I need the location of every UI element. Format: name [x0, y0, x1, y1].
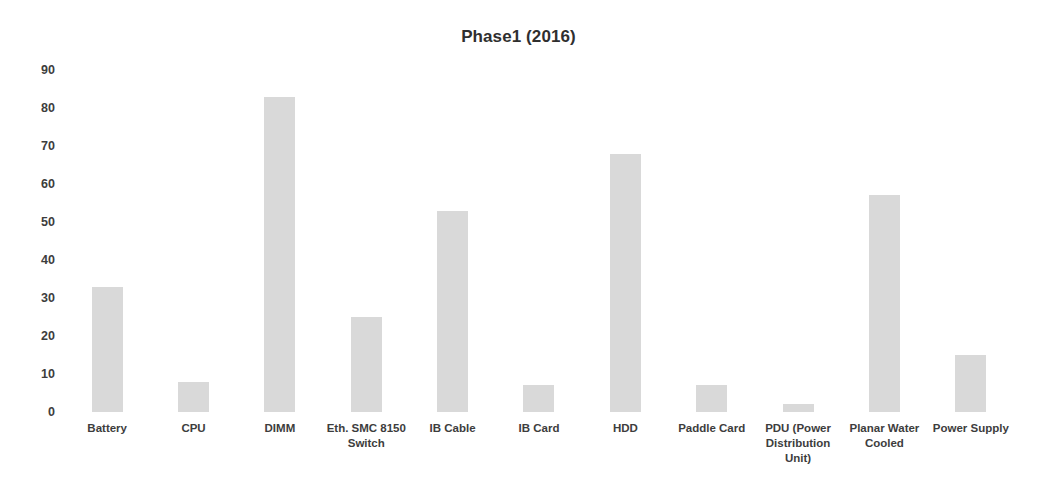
bar[interactable] [955, 355, 986, 412]
x-axis-category-label: Battery [64, 421, 150, 436]
bar-slot [237, 70, 323, 412]
x-axis-category-label: Paddle Card [669, 421, 755, 436]
x-axis-category-label: IB Cable [409, 421, 495, 436]
bar[interactable] [351, 317, 382, 412]
bar-slot [323, 70, 409, 412]
x-axis-category-label: IB Card [496, 421, 582, 436]
bar-slot [841, 70, 927, 412]
y-axis-tick-label: 30 [41, 291, 55, 305]
y-axis-tick-label: 20 [41, 329, 55, 343]
bar[interactable] [869, 195, 900, 412]
bar[interactable] [92, 287, 123, 412]
y-axis-tick-label: 90 [41, 63, 55, 77]
y-axis-tick-label: 40 [41, 253, 55, 267]
y-axis-tick-label: 50 [41, 215, 55, 229]
x-axis-category-label: HDD [582, 421, 668, 436]
x-axis-category-label: Planar Water Cooled [841, 421, 927, 451]
bar-slot [928, 70, 1014, 412]
bar-chart-figure: . . . , . . . Phase1 (2016) 908070605040… [0, 0, 1037, 502]
bar-slot [755, 70, 841, 412]
x-axis-labels: BatteryCPUDIMMEth. SMC 8150 SwitchIB Cab… [64, 421, 1014, 466]
y-axis-tick-label: 80 [41, 101, 55, 115]
plot-area: 9080706050403020100 [64, 70, 1014, 412]
x-axis-category-label: Power Supply [928, 421, 1014, 436]
bar[interactable] [696, 385, 727, 412]
bars-layer [64, 70, 1014, 412]
bar[interactable] [437, 211, 468, 412]
bar-slot [496, 70, 582, 412]
x-axis-category-label: Eth. SMC 8150 Switch [323, 421, 409, 451]
bar[interactable] [523, 385, 554, 412]
bar-slot [669, 70, 755, 412]
bar-slot [582, 70, 668, 412]
y-axis-tick-label: 0 [48, 405, 55, 419]
bar[interactable] [178, 382, 209, 412]
bar-slot [150, 70, 236, 412]
bar[interactable] [264, 97, 295, 412]
chart-title: Phase1 (2016) [0, 27, 1037, 47]
y-axis-tick-label: 70 [41, 139, 55, 153]
x-axis-category-label: CPU [150, 421, 236, 436]
cut-off-text-line: . . . , . . . [0, 0, 1037, 2]
y-axis-tick-label: 10 [41, 367, 55, 381]
x-axis-category-label: DIMM [237, 421, 323, 436]
x-axis-category-label: PDU (Power Distribution Unit) [755, 421, 841, 466]
bar[interactable] [783, 404, 814, 412]
bar-slot [409, 70, 495, 412]
y-axis-tick-label: 60 [41, 177, 55, 191]
bar-slot [64, 70, 150, 412]
bar[interactable] [610, 154, 641, 412]
